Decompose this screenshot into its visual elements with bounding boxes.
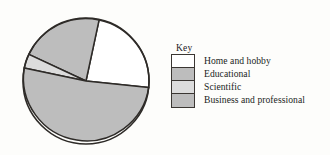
legend-swatch-business-and-professional[interactable]	[172, 94, 194, 107]
legend-label-scientific: Scientific	[204, 80, 305, 93]
legend-label-business-and-professional: Business and professional	[204, 93, 305, 106]
legend-label-home-and-hobby: Home and hobby	[204, 54, 305, 67]
pie-chart-graphic	[0, 0, 170, 155]
legend-title: Key	[176, 43, 328, 53]
legend-swatch-scientific[interactable]	[172, 81, 194, 94]
legend-swatch-home-and-hobby[interactable]	[172, 55, 194, 68]
legend-body: Home and hobby Educational Scientific Bu…	[168, 54, 328, 110]
legend-swatch-educational[interactable]	[172, 68, 194, 81]
legend-labels: Home and hobby Educational Scientific Bu…	[204, 54, 305, 106]
legend-swatch-stack	[171, 54, 195, 108]
pie-chart-figure: Key Home and hobby Educational Scientifi…	[0, 0, 330, 155]
legend-label-educational: Educational	[204, 67, 305, 80]
legend: Key Home and hobby Educational Scientifi…	[168, 43, 328, 110]
